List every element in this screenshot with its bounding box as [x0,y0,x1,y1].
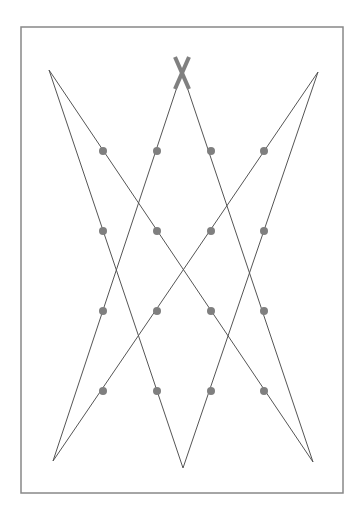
dot [153,227,161,235]
x-marker-icon [175,57,189,89]
line-top-left-to-bottom-right [49,70,313,462]
dot [153,307,161,315]
line-top-center-to-bottom-right [182,72,313,462]
crossing-lines [49,70,318,468]
dot [99,147,107,155]
dot [207,387,215,395]
dot [260,307,268,315]
line-top-right-to-bottom-left [53,72,318,461]
dot [260,147,268,155]
dot [260,227,268,235]
dot [153,387,161,395]
diagram-canvas [0,0,364,516]
dot [153,147,161,155]
dot [207,147,215,155]
line-top-center-to-bottom-left [53,72,182,461]
dot [99,227,107,235]
frame-border [21,27,343,493]
dot [99,387,107,395]
dot [260,387,268,395]
line-top-right-to-bottom-center [183,72,318,468]
dot [207,307,215,315]
dot [207,227,215,235]
dot [99,307,107,315]
